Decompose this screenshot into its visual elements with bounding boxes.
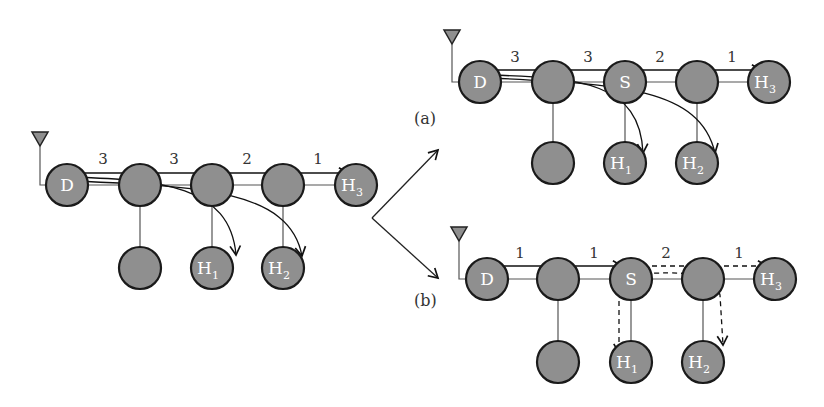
- hop-count: 2: [242, 150, 252, 168]
- svg-text:1: 1: [515, 244, 525, 262]
- svg-text:3: 3: [510, 48, 520, 66]
- node-relay: [119, 164, 161, 206]
- hop-count: 1: [313, 150, 323, 168]
- node-relay: [191, 164, 233, 206]
- svg-text:1: 1: [589, 244, 599, 262]
- antenna-icon: [32, 132, 48, 146]
- hop-count: 3: [169, 150, 179, 168]
- svg-text:1: 1: [734, 244, 744, 262]
- antenna-icon: [451, 227, 467, 241]
- svg-text:2: 2: [655, 48, 665, 66]
- node-relay: [532, 61, 574, 103]
- node-relay: [262, 164, 304, 206]
- original-topology: D H3 H1 H2 3 3 2 1: [32, 132, 377, 289]
- svg-text:D: D: [473, 72, 487, 92]
- antenna-icon: [444, 30, 460, 44]
- node-leaf: [532, 142, 574, 184]
- svg-text:2: 2: [661, 244, 671, 262]
- node-leaf: [119, 247, 161, 289]
- svg-text:3: 3: [583, 48, 593, 66]
- transition-arrows: (a) (b): [372, 109, 438, 310]
- node-relay: [537, 258, 579, 300]
- panel-a: D S H3 H1 H2 3 3 2 1: [444, 30, 790, 184]
- node-leaf: [537, 341, 579, 383]
- svg-text:D: D: [60, 175, 74, 195]
- node-relay: [682, 258, 724, 300]
- panel-b: D S H3 H1 H2 1 1 2 1: [451, 227, 796, 383]
- svg-text:D: D: [480, 269, 494, 289]
- caption-a: (a): [414, 109, 436, 128]
- svg-text:S: S: [619, 72, 631, 92]
- hop-count: 3: [98, 150, 108, 168]
- svg-text:S: S: [625, 269, 637, 289]
- svg-text:1: 1: [727, 48, 737, 66]
- network-diagram: D H3 H1 H2 3 3 2 1 (a) (b) D S H3 H1 H2: [0, 0, 824, 407]
- caption-b: (b): [414, 291, 437, 310]
- node-relay: [676, 61, 718, 103]
